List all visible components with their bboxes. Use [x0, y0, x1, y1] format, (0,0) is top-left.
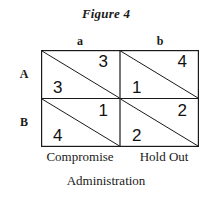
payoff-upper-right: 3 [99, 53, 108, 70]
cell-A-b: 4 1 [120, 50, 199, 99]
payoff-lower-left: 3 [53, 79, 62, 96]
payoff-upper-right: 4 [178, 53, 187, 70]
axis-label-hold-out: Hold Out [124, 149, 204, 165]
cell-B-b: 2 2 [120, 99, 199, 148]
axis-title-administration: Administration [0, 173, 212, 189]
figure-4-payoff-matrix: Figure 4 a b A B 3 3 4 1 1 4 [0, 0, 212, 200]
payoff-lower-left: 1 [132, 79, 141, 96]
axis-label-compromise: Compromise [30, 149, 130, 165]
payoff-upper-right: 1 [99, 102, 108, 119]
cell-A-a: 3 3 [41, 50, 120, 99]
matrix-grid: 3 3 4 1 1 4 2 2 [41, 50, 199, 147]
cell-B-a: 1 4 [41, 99, 120, 148]
payoff-lower-left: 2 [132, 127, 141, 144]
payoff-lower-left: 4 [53, 127, 62, 144]
row-header-b: B [14, 115, 34, 130]
payoff-upper-right: 2 [178, 102, 187, 119]
row-header-a: A [14, 67, 34, 82]
column-header-a: a [60, 34, 100, 49]
figure-title: Figure 4 [0, 6, 212, 22]
column-header-b: b [140, 34, 180, 49]
